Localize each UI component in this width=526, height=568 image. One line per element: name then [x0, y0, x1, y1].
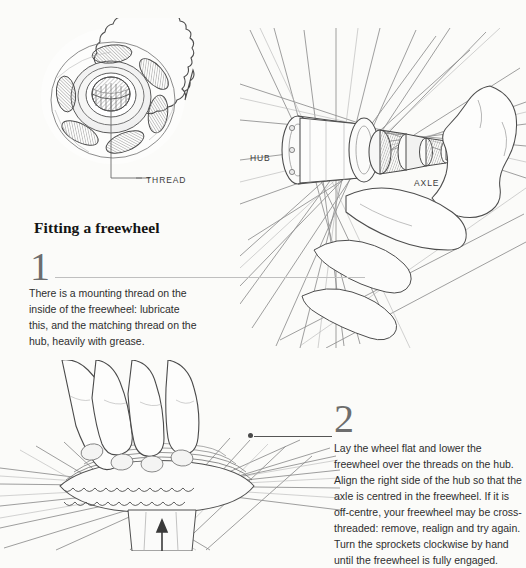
section-heading: Fitting a freewheel — [34, 219, 160, 237]
hub-callout-label: HUB — [250, 153, 271, 163]
thread-callout-label: THREAD — [146, 175, 186, 185]
step-2-body: Lay the wheel flat and lower the freewhe… — [334, 440, 522, 568]
step-1-rule — [55, 277, 365, 278]
axle-callout-label: AXLE — [414, 178, 439, 188]
step-1-number: 1 — [30, 247, 50, 287]
step-1-body: There is a mounting thread on the inside… — [29, 285, 201, 349]
step-1-text: There is a mounting thread on the inside… — [29, 285, 201, 349]
freewheel-sprocket-illustration — [8, 18, 238, 198]
step-2-leader-dot — [248, 433, 253, 438]
hand-pressing-freewheel-illustration — [0, 360, 340, 551]
wheel-hub-axle-illustration — [240, 28, 526, 348]
step-2-number: 2 — [334, 399, 354, 439]
step-2-leader-line — [254, 436, 332, 437]
step-2-text: Lay the wheel flat and lower the freewhe… — [334, 440, 522, 568]
